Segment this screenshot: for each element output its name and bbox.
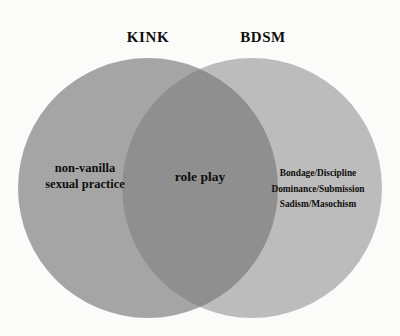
right-region-label: Bondage/Discipline Dominance/Submission … (272, 166, 365, 213)
intersection-label: role play (175, 168, 225, 185)
left-region-label-line-1: non-vanilla (45, 160, 125, 176)
right-region-label-line-2: Dominance/Submission (272, 182, 365, 198)
set-heading-bdsm: BDSM (240, 29, 286, 46)
venn-diagram: KINK BDSM non-vanilla sexual practice ro… (0, 0, 400, 336)
left-region-label-line-2: sexual practice (45, 176, 125, 192)
left-region-label: non-vanilla sexual practice (45, 160, 125, 192)
right-region-label-line-1: Bondage/Discipline (272, 166, 365, 182)
set-heading-kink: KINK (127, 29, 169, 46)
right-region-label-line-3: Sadism/Masochism (272, 197, 365, 213)
